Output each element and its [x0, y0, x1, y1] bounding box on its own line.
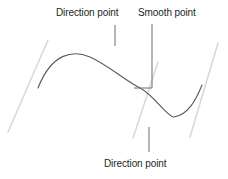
- direction-handle-left-line: [8, 40, 48, 132]
- diagram-canvas: [0, 0, 228, 179]
- direction-handle-right-line: [190, 43, 218, 137]
- label-smooth-point: Smooth point: [138, 7, 196, 19]
- bezier-curve-diagram: Direction point Smooth point Direction p…: [0, 0, 228, 179]
- bezier-curve: [38, 54, 202, 117]
- leader-smooth-point: [134, 24, 152, 88]
- label-direction-point-top: Direction point: [56, 7, 118, 19]
- label-direction-point-bottom: Direction point: [104, 158, 166, 170]
